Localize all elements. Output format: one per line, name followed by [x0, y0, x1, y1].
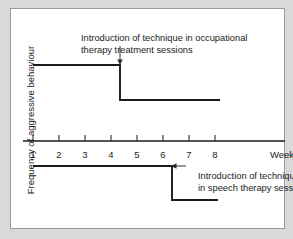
x-tick-label-3: 3	[78, 149, 92, 160]
annotation-occupational-therapy-line2: therapy treatment sessions	[81, 44, 247, 56]
figure-container: Frequency of aggressive behaviour Introd…	[0, 0, 293, 239]
x-axis	[23, 135, 285, 141]
chart-plot-frame: Frequency of aggressive behaviour Introd…	[10, 8, 285, 229]
x-tick-label-4: 4	[104, 149, 118, 160]
annotation-speech-therapy: Introduction of technique in speech ther…	[198, 170, 293, 194]
speech-therapy-series	[33, 166, 218, 200]
annotation-occupational-therapy: Introduction of technique in occupationa…	[81, 32, 247, 56]
x-tick-label-5: 5	[130, 149, 144, 160]
speech-therapy-step-line	[33, 166, 218, 200]
annotation-speech-therapy-line1: Introduction of technique	[198, 170, 293, 182]
annotation-speech-therapy-line2: in speech therapy sessions	[198, 182, 293, 194]
x-tick-label-7: 7	[182, 149, 196, 160]
x-tick-label-1: 1	[26, 149, 40, 160]
annotation-occupational-therapy-line1: Introduction of technique in occupationa…	[81, 32, 247, 44]
x-tick-label-8: 8	[208, 149, 222, 160]
occupational-therapy-step-line	[33, 65, 220, 100]
occupational-therapy-series	[33, 65, 220, 100]
x-axis-label: Week	[270, 149, 293, 160]
chart-area: Introduction of technique in occupationa…	[23, 18, 285, 221]
arrow-left-icon	[171, 163, 186, 168]
x-tick-label-2: 2	[52, 149, 66, 160]
x-tick-label-6: 6	[156, 149, 170, 160]
